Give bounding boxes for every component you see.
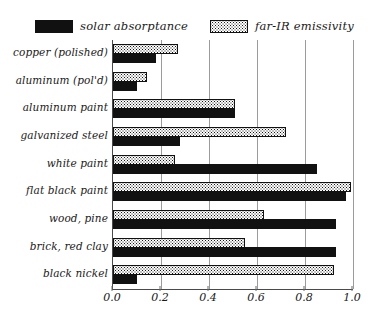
bar-solar-absorptance (113, 136, 180, 146)
x-axis-tick-labels: 0.00.20.40.60.81.0 (0, 291, 389, 311)
bar-solar-absorptance (113, 247, 336, 257)
category-label: wood, pine (0, 212, 108, 224)
legend-label-far-ir-emissivity: far-IR emissivity (255, 19, 354, 33)
bar-group (113, 123, 353, 151)
x-tick-label: 0.0 (103, 291, 121, 304)
bar-solar-absorptance (113, 274, 137, 284)
bar-chart: solar absorptance far-IR emissivity copp… (0, 0, 389, 322)
legend-label-solar-absorptance: solar absorptance (80, 19, 188, 33)
category-label: white paint (0, 157, 108, 169)
legend-item-far-ir-emissivity: far-IR emissivity (210, 19, 354, 33)
bar-group (113, 95, 353, 123)
bar-group (113, 178, 353, 206)
bar-group (113, 68, 353, 96)
bar-solar-absorptance (113, 219, 336, 229)
bar-group (113, 40, 353, 68)
bar-far-ir-emissivity (113, 265, 334, 275)
x-tick-label: 0.6 (247, 291, 265, 304)
x-tick-label: 1.0 (343, 291, 361, 304)
legend-item-solar-absorptance: solar absorptance (35, 19, 188, 33)
chart-legend: solar absorptance far-IR emissivity (0, 16, 389, 36)
category-label: aluminum paint (0, 101, 108, 113)
bar-solar-absorptance (113, 53, 156, 63)
bar-solar-absorptance (113, 191, 346, 201)
bar-solar-absorptance (113, 164, 317, 174)
bar-group (113, 234, 353, 262)
x-tick-label: 0.4 (199, 291, 217, 304)
x-tick-label: 0.2 (151, 291, 169, 304)
legend-swatch-solid-icon (35, 20, 73, 33)
bar-solar-absorptance (113, 108, 235, 118)
category-label: flat black paint (0, 184, 108, 196)
category-label: copper (polished) (0, 46, 108, 58)
x-tick-label: 0.8 (295, 291, 313, 304)
gridline (353, 40, 354, 289)
category-label: black nickel (0, 267, 108, 279)
category-axis-labels: copper (polished)aluminum (pol'd)aluminu… (0, 40, 108, 289)
bar-group (113, 151, 353, 179)
category-label: aluminum (pol'd) (0, 74, 108, 86)
bar-solar-absorptance (113, 81, 137, 91)
bar-group (113, 206, 353, 234)
legend-swatch-stipple-icon (210, 20, 248, 33)
plot-area (112, 40, 353, 289)
bar-group (113, 261, 353, 289)
category-label: galvanized steel (0, 129, 108, 141)
category-label: brick, red clay (0, 240, 108, 252)
